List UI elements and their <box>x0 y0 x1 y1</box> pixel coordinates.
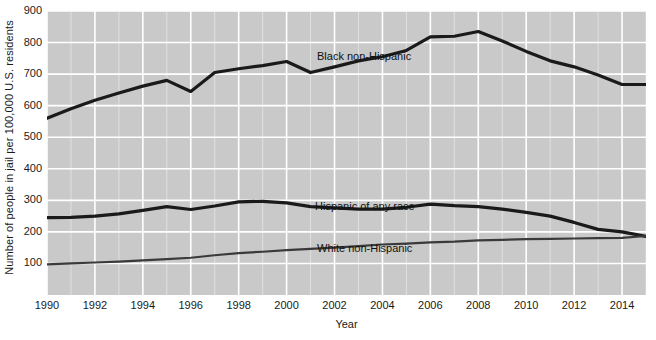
x-tick-1992: 1992 <box>75 299 115 311</box>
x-tick-2012: 2012 <box>554 299 594 311</box>
x-axis-tick-labels: 1990199219941996199820002002200420062008… <box>0 0 656 340</box>
x-tick-2002: 2002 <box>315 299 355 311</box>
x-tick-2010: 2010 <box>506 299 546 311</box>
x-tick-2004: 2004 <box>362 299 402 311</box>
x-tick-2008: 2008 <box>458 299 498 311</box>
x-axis-title: Year <box>47 318 646 330</box>
x-tick-1998: 1998 <box>219 299 259 311</box>
x-tick-2014: 2014 <box>602 299 642 311</box>
x-tick-1990: 1990 <box>27 299 67 311</box>
x-tick-2000: 2000 <box>267 299 307 311</box>
x-tick-1996: 1996 <box>171 299 211 311</box>
chart-figure: Number of people in jail per 100,000 U.S… <box>0 0 656 340</box>
x-tick-2006: 2006 <box>410 299 450 311</box>
x-tick-1994: 1994 <box>123 299 163 311</box>
